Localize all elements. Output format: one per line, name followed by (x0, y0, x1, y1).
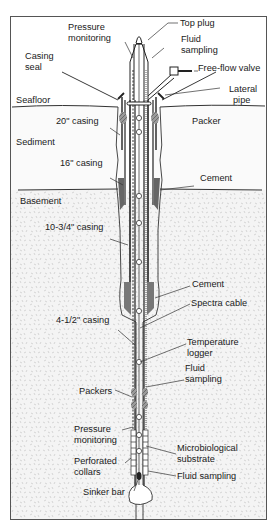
label-microbiological-substrate-1: Microbiological (177, 443, 238, 453)
label-lateral-pipe-2: pipe (233, 95, 250, 105)
label-fluid-sampling-mid-2: sampling (185, 374, 222, 384)
label-temperature-logger-1: Temperature (187, 337, 239, 347)
label-packers: Packers (79, 386, 113, 396)
label-fluid-sampling-top-1: Fluid (181, 34, 201, 44)
label-pressure-monitoring-bottom-1: Pressure (74, 424, 111, 434)
label-perforated-collars-1: Perforated (74, 456, 117, 466)
label-casing-10-3-4: 10-3/4" casing (45, 222, 103, 232)
basement-layer (11, 190, 266, 519)
label-basement: Basement (20, 196, 62, 206)
label-sinker-bar: Sinker bar (83, 487, 125, 497)
packer-upper-right (151, 112, 159, 124)
sinker-bar (137, 472, 142, 480)
label-casing-seal-2: seal (25, 62, 42, 72)
label-spectra-cable: Spectra cable (191, 298, 247, 308)
label-casing-16: 16" casing (60, 158, 103, 168)
label-pressure-monitoring-bottom-2: monitoring (74, 435, 117, 445)
label-cement-upper: Cement (200, 173, 233, 183)
label-fluid-sampling-mid-1: Fluid (185, 363, 205, 373)
label-free-flow-valve: Free-flow valve (198, 63, 260, 73)
label-casing-4-1-2: 4-1/2" casing (56, 315, 109, 325)
label-pressure-monitoring-top-1: Pressure (68, 22, 105, 32)
label-sediment: Sediment (16, 137, 55, 147)
label-microbiological-substrate-2: substrate (177, 454, 215, 464)
label-casing-seal-1: Casing (25, 51, 54, 61)
label-temperature-logger-2: logger (187, 348, 213, 358)
label-top-plug: Top plug (180, 18, 215, 28)
borehole-diagram: Top plug Pressure monitoring Fluid sampl… (0, 0, 278, 525)
packer-upper-left (119, 112, 127, 124)
label-casing-20: 20" casing (56, 116, 99, 126)
label-fluid-sampling-top-2: sampling (181, 45, 218, 55)
label-perforated-collars-2: collars (74, 467, 101, 477)
label-lateral-pipe-1: Lateral (229, 84, 257, 94)
label-packer: Packer (192, 116, 221, 126)
label-cement-lower: Cement (192, 279, 225, 289)
label-fluid-sampling-bottom: Fluid sampling (177, 471, 236, 481)
label-pressure-monitoring-top-2: monitoring (68, 33, 111, 43)
label-seafloor: Seafloor (16, 95, 50, 105)
